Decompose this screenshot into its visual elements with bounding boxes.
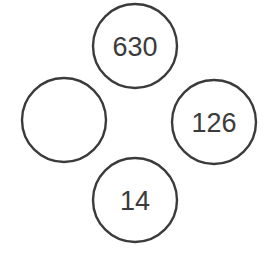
node-right-label: 126 [191, 108, 236, 138]
node-right[interactable]: 126 [172, 80, 256, 164]
node-top[interactable]: 630 [93, 4, 177, 88]
node-bottom[interactable]: 14 [93, 158, 177, 242]
node-left-circle[interactable] [22, 78, 106, 162]
node-left[interactable] [22, 78, 106, 162]
circle-chain-diagram: 630 126 14 [0, 0, 270, 262]
node-top-label: 630 [112, 32, 157, 62]
node-bottom-label: 14 [120, 186, 150, 216]
diagram-canvas: 630 126 14 [0, 0, 270, 262]
